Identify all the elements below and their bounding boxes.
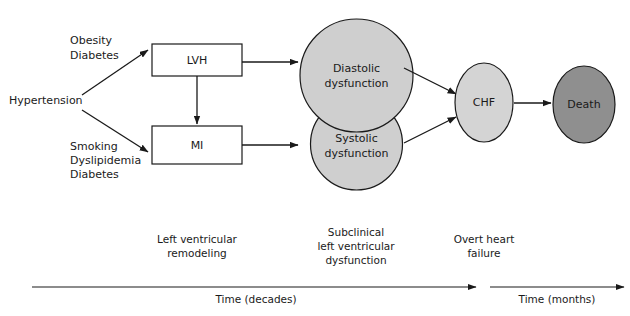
- risk-factor-smoking: Smoking: [70, 140, 118, 153]
- stage-overt-line2: failure: [467, 247, 500, 259]
- risk-factor-dyslipidemia: Dyslipidemia: [70, 154, 141, 167]
- node-systolic-label-line2: dysfunction: [324, 147, 388, 160]
- stage-subclinical-line2: left ventricular: [317, 240, 395, 252]
- node-systolic-label-line1: Systolic: [335, 132, 377, 145]
- heart-failure-progression-diagram: Obesity Diabetes Hypertension Smoking Dy…: [0, 0, 630, 316]
- node-death-label: Death: [567, 98, 600, 111]
- risk-factor-hypertension: Hypertension: [9, 94, 83, 107]
- risk-factor-obesity: Obesity: [70, 34, 113, 47]
- timeline-months-label: Time (months): [518, 293, 596, 305]
- stage-subclinical-line3: dysfunction: [325, 254, 386, 266]
- node-diastolic-dysfunction-circle: [300, 19, 413, 132]
- node-diastolic-label-line2: dysfunction: [324, 77, 388, 90]
- node-lvh-label: LVH: [187, 54, 208, 67]
- timeline-decades-label: Time (decades): [214, 293, 296, 305]
- stage-remodeling-line2: remodeling: [167, 247, 226, 259]
- diagram-canvas: Obesity Diabetes Hypertension Smoking Dy…: [0, 0, 630, 316]
- risk-factor-diabetes-upper: Diabetes: [70, 49, 119, 62]
- arrow-systolic-to-chf: [404, 117, 456, 143]
- node-diastolic-label-line1: Diastolic: [333, 62, 380, 75]
- stage-overt-line1: Overt heart: [454, 233, 515, 245]
- node-chf-label: CHF: [473, 96, 495, 109]
- stage-remodeling-line1: Left ventricular: [157, 233, 238, 245]
- node-mi-label: MI: [191, 139, 204, 152]
- stage-subclinical-line1: Subclinical: [328, 226, 384, 238]
- risk-factor-diabetes-lower: Diabetes: [70, 168, 119, 181]
